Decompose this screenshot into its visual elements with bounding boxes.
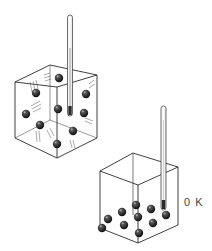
gas-particles (22, 74, 90, 148)
zero-kelvin-cube (98, 106, 178, 243)
thermometer-icon (161, 106, 166, 210)
figure-canvas (0, 0, 212, 251)
hot-gas-cube (15, 15, 97, 158)
temperature-label: 0 K (184, 196, 204, 208)
thermometer-icon (68, 15, 73, 116)
